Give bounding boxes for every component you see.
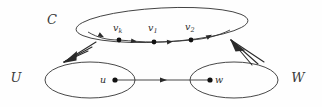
vertex-dot-u (112, 77, 117, 82)
region-label-U: U (11, 70, 23, 85)
vertex-label-group: vk v1 v2 u w (100, 21, 223, 85)
relation-arrow-w-to-c (230, 39, 264, 65)
relation-arrowhead-w-c (230, 39, 245, 52)
vertex-label-w: w (215, 74, 223, 85)
vertex-label-vk-sub: k (118, 27, 122, 35)
region-label-group: C U W (11, 12, 307, 85)
edge-u-to-w-group (117, 77, 208, 82)
vertex-dot-v1 (152, 40, 157, 45)
vertex-label-v2: v2 (185, 21, 195, 34)
arrowhead-v1-to-v2 (167, 39, 173, 44)
vertex-label-u: u (100, 74, 106, 85)
vertex-dot-v2 (189, 38, 194, 43)
cycle-path-group (88, 30, 230, 44)
vertex-label-vk: vk (113, 22, 122, 35)
relation-arrow-c-to-u (63, 42, 96, 63)
vertex-group (112, 38, 212, 83)
figure-canvas: C U W (0, 0, 322, 107)
vertex-label-v1-sub: 1 (153, 27, 157, 35)
vertex-dot-vk (117, 38, 122, 43)
region-label-C: C (47, 12, 57, 27)
graph-diagram: C U W (0, 0, 322, 107)
vertex-label-v1: v1 (148, 22, 158, 35)
region-label-W: W (291, 70, 306, 85)
region-ellipse-C (75, 4, 249, 47)
vertex-dot-w (207, 77, 212, 82)
arrowhead-u-to-w (160, 77, 167, 82)
vertex-label-v2-sub: 2 (189, 26, 194, 34)
